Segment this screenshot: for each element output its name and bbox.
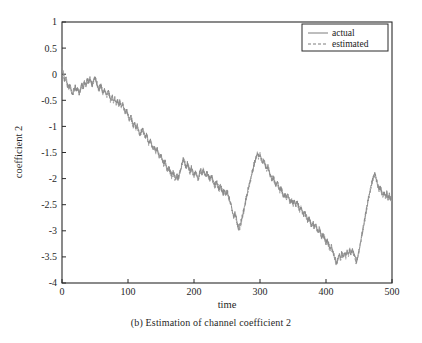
y-tick-label: -2 [49, 173, 57, 184]
series-line-actual [62, 65, 392, 264]
x-tick-label: 100 [121, 286, 136, 297]
y-tick-label: -1.5 [41, 147, 57, 158]
y-tick-label: 1 [52, 16, 57, 27]
x-tick-label: 0 [60, 286, 65, 297]
x-axis-title: time [218, 299, 237, 310]
y-tick-label: -3 [49, 225, 57, 236]
y-tick-label: 0 [52, 69, 57, 80]
y-tick-label: -0.5 [41, 95, 57, 106]
y-tick-label: -2.5 [41, 199, 57, 210]
y-tick-label: -1 [49, 121, 57, 132]
x-axis-ticks: 0100200300400500 [60, 279, 400, 297]
x-tick-label: 200 [187, 286, 202, 297]
y-tick-label: -4 [49, 277, 57, 288]
figure-container: 10.50-0.5-1-1.5-2-2.5-3-3.5-4 0100200300… [0, 0, 422, 343]
x-tick-label: 300 [253, 286, 268, 297]
legend[interactable]: actual estimated [302, 24, 388, 51]
figure-caption: (b) Estimation of channel coefficient 2 [0, 317, 422, 328]
y-axis-title: coefficient 2 [13, 126, 24, 179]
y-tick-label: -3.5 [41, 251, 57, 262]
legend-label-estimated: estimated [332, 39, 369, 49]
y-tick-label: 0.5 [45, 43, 58, 54]
chart-canvas: 10.50-0.5-1-1.5-2-2.5-3-3.5-4 0100200300… [0, 0, 422, 343]
x-tick-label: 500 [385, 286, 400, 297]
x-tick-label: 400 [319, 286, 334, 297]
data-series-group [62, 65, 392, 265]
legend-label-actual: actual [332, 28, 355, 38]
plot-frame [62, 22, 392, 283]
